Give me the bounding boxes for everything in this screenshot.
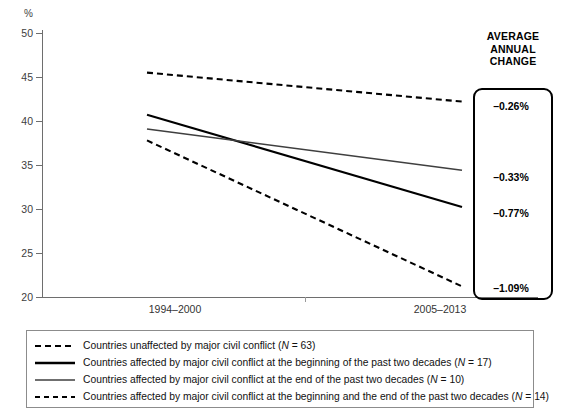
legend-label-end: Countries affected by major civil confli… [83,374,464,385]
legend-swatch-solid-thick [35,358,75,368]
legend-swatch-dashed-thick [35,341,75,351]
average-annual-change-title: AVERAGE ANNUAL CHANGE [468,30,558,68]
aac-value-0-77: –0.77% [473,207,549,219]
series-line-unaffected [147,73,462,102]
aac-value-0-26: –0.26% [473,100,549,112]
legend-label-both: Countries affected by major civil confli… [83,391,549,402]
legend-swatch-dashed-thin [35,392,75,402]
legend-item-beginning: Countries affected by major civil confli… [35,354,525,371]
aac-value-0-33: –0.33% [473,171,549,183]
chart-plot-area: % 50 45 40 35 30 25 20 1994–2000 2005–20… [0,0,561,320]
aac-title-line-2: ANNUAL [468,43,558,56]
legend-item-end: Countries affected by major civil confli… [35,371,525,388]
chart-legend: Countries unaffected by major civil conf… [26,330,534,408]
series-line-both [147,140,462,286]
aac-value-1-09: –1.09% [473,282,549,294]
legend-item-both: Countries affected by major civil confli… [35,388,525,405]
legend-label-unaffected: Countries unaffected by major civil conf… [83,340,315,351]
legend-item-unaffected: Countries unaffected by major civil conf… [35,337,525,354]
legend-label-beginning: Countries affected by major civil confli… [83,357,492,368]
chart-root: % 50 45 40 35 30 25 20 1994–2000 2005–20… [0,0,561,417]
series-line-beginning [147,115,462,207]
series-line-end [147,129,462,170]
average-annual-change-box [473,88,553,300]
aac-title-line-1: AVERAGE [468,30,558,43]
aac-title-line-3: CHANGE [468,55,558,68]
legend-swatch-solid-thin [35,375,75,385]
